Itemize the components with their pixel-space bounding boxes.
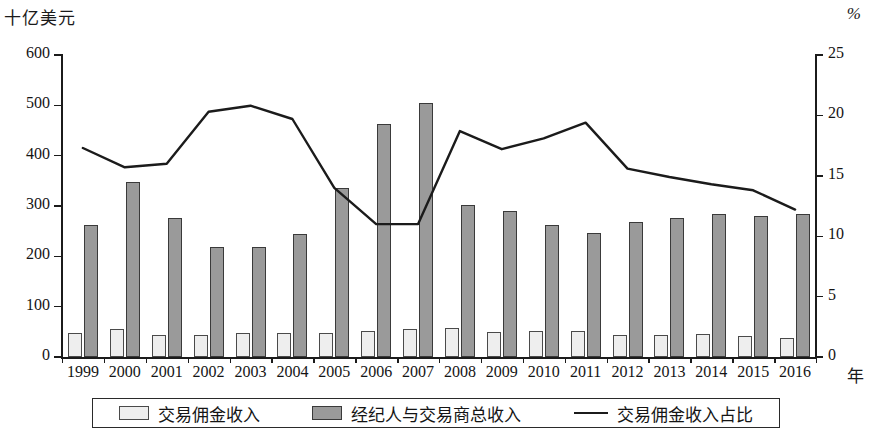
bar-total-revenue [587, 233, 601, 357]
light-square-swatch-icon [119, 406, 149, 420]
bar-total-revenue [754, 216, 768, 357]
left-axis-tick-label: 200 [4, 245, 50, 263]
bar-commission [780, 338, 794, 357]
left-axis-tick [54, 306, 62, 308]
bar-total-revenue [84, 225, 98, 357]
x-axis-tick [816, 357, 817, 363]
right-axis-tick-label: 5 [828, 286, 836, 304]
bar-total-revenue [293, 234, 307, 357]
left-axis-tick [54, 205, 62, 207]
left-axis-tick [54, 105, 62, 107]
bar-total-revenue [796, 214, 810, 357]
x-axis-label: 2007 [397, 363, 439, 381]
x-axis-label: 2015 [732, 363, 774, 381]
x-axis-label: 2011 [565, 363, 607, 381]
left-axis-tick-label: 300 [4, 195, 50, 213]
legend-label-total-revenue: 经纪人与交易商总收入 [351, 401, 521, 426]
legend-item-commission-share: 交易佣金收入占比 [574, 401, 753, 426]
bar-commission [236, 333, 250, 357]
chart-figure: 十亿美元 % 年 0100200300400500600 0510152025 … [0, 0, 872, 432]
x-axis-label: 2008 [439, 363, 481, 381]
x-axis-label: 1999 [62, 363, 104, 381]
bar-commission [68, 333, 82, 357]
legend-label-commission: 交易佣金收入 [158, 401, 260, 426]
bar-total-revenue [629, 222, 643, 357]
left-axis-tick [54, 54, 62, 56]
bar-total-revenue [252, 247, 266, 357]
right-axis-tick-label: 0 [828, 346, 836, 364]
x-axis-label: 2010 [523, 363, 565, 381]
right-axis-title: % [847, 4, 862, 24]
bar-commission [403, 329, 417, 357]
bar-commission [152, 335, 166, 357]
right-axis-tick-label: 10 [828, 225, 844, 243]
left-axis-tick [54, 155, 62, 157]
bar-total-revenue [712, 214, 726, 357]
plot-area [62, 55, 816, 357]
x-axis-label: 2012 [607, 363, 649, 381]
right-axis-tick [815, 236, 823, 238]
bar-total-revenue [545, 225, 559, 357]
bar-total-revenue [335, 188, 349, 357]
bar-total-revenue [168, 218, 182, 357]
bar-commission [194, 335, 208, 357]
x-axis-title: 年 [847, 362, 864, 387]
bar-commission [738, 336, 752, 357]
chart-legend: 交易佣金收入 经纪人与交易商总收入 交易佣金收入占比 [92, 398, 780, 428]
bar-total-revenue [126, 182, 140, 357]
left-axis-tick [54, 356, 62, 358]
left-axis-title: 十亿美元 [4, 4, 76, 29]
bar-commission [361, 331, 375, 357]
line-swatch-icon [574, 412, 608, 414]
right-axis-tick [815, 54, 823, 56]
bar-commission [696, 334, 710, 357]
bar-commission [110, 329, 124, 357]
left-axis-tick-label: 500 [4, 94, 50, 112]
bar-commission [445, 328, 459, 357]
left-axis-tick [54, 256, 62, 258]
x-axis-label: 2002 [188, 363, 230, 381]
bar-commission [654, 335, 668, 357]
bar-commission [529, 331, 543, 357]
bar-total-revenue [670, 218, 684, 357]
bar-total-revenue [461, 205, 475, 357]
bar-commission [277, 333, 291, 357]
right-axis-tick-label: 15 [828, 165, 844, 183]
left-axis-tick-label: 600 [4, 44, 50, 62]
bar-total-revenue [503, 211, 517, 357]
legend-label-commission-share: 交易佣金收入占比 [617, 401, 753, 426]
x-axis-label: 2005 [313, 363, 355, 381]
left-axis-tick-label: 100 [4, 296, 50, 314]
right-axis-tick-label: 20 [828, 104, 844, 122]
bar-total-revenue [419, 103, 433, 357]
right-axis-tick [815, 296, 823, 298]
bar-commission [319, 333, 333, 357]
x-axis-label: 2016 [774, 363, 816, 381]
left-axis-tick-label: 0 [4, 346, 50, 364]
right-axis-tick-label: 25 [828, 44, 844, 62]
dark-square-swatch-icon [312, 406, 342, 420]
x-axis-label: 2000 [104, 363, 146, 381]
x-axis-label: 2001 [146, 363, 188, 381]
x-axis-label: 2006 [355, 363, 397, 381]
bar-commission [571, 331, 585, 357]
x-axis-label: 2009 [481, 363, 523, 381]
x-axis-label: 2014 [690, 363, 732, 381]
legend-item-commission: 交易佣金收入 [119, 401, 260, 426]
x-axis-label: 2004 [271, 363, 313, 381]
legend-item-total-revenue: 经纪人与交易商总收入 [312, 401, 521, 426]
x-axis-label: 2003 [230, 363, 272, 381]
right-axis-tick [815, 115, 823, 117]
bar-total-revenue [210, 247, 224, 357]
left-axis-tick-label: 400 [4, 145, 50, 163]
bar-commission [613, 335, 627, 357]
bar-total-revenue [377, 124, 391, 357]
right-axis-tick [815, 175, 823, 177]
x-axis-label: 2013 [648, 363, 690, 381]
bar-commission [487, 332, 501, 357]
